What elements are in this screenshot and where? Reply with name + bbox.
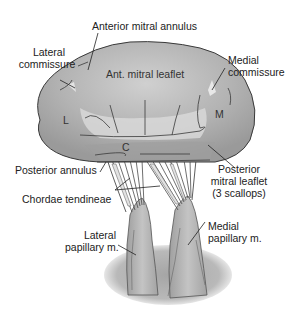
mitral-valve-diagram: Anterior mitral annulus Lateral commissu…: [0, 0, 295, 318]
label-posterior-annulus: Posterior annulus: [15, 164, 97, 176]
label-M: M: [215, 108, 224, 120]
label-chordae-tendineae: Chordae tendineae: [22, 193, 111, 205]
label-posterior-leaflet-line2: mitral leaflet: [199, 175, 279, 187]
label-lateral-papillary-line1: Lateral: [80, 229, 120, 241]
medial-papillary-muscle: [169, 196, 207, 298]
label-lateral-commissure-line1: Lateral: [24, 46, 74, 58]
label-medial-commissure-line2: commissure: [228, 66, 285, 78]
label-lateral-commissure-line2: commissure: [16, 58, 78, 70]
label-medial-commissure-line1: Medial: [228, 54, 259, 66]
label-ant-mitral-leaflet: Ant. mitral leaflet: [106, 68, 184, 80]
label-L: L: [63, 114, 69, 126]
label-lateral-papillary-line2: papillary m.: [65, 241, 119, 253]
chordae-highlights: [112, 164, 186, 206]
label-medial-papillary-line1: Medial: [208, 220, 239, 232]
label-anterior-mitral-annulus: Anterior mitral annulus: [92, 20, 197, 32]
label-medial-papillary-line2: papillary m.: [208, 232, 262, 244]
label-posterior-leaflet-line1: Posterior: [204, 163, 274, 175]
posterior-leaflet-band: [85, 141, 215, 160]
label-C: C: [122, 141, 130, 153]
label-posterior-leaflet-line3: (3 scallops): [199, 187, 279, 199]
